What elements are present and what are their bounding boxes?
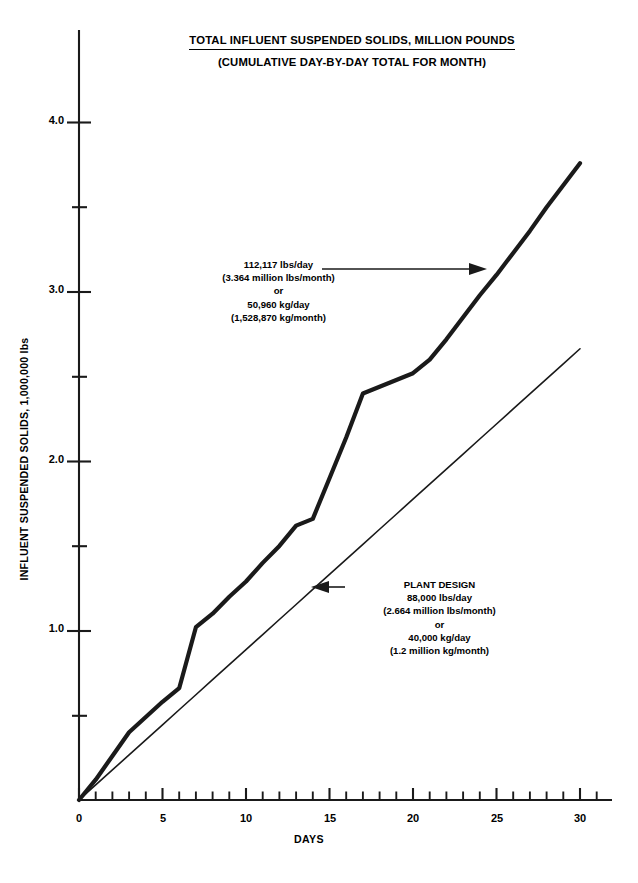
annotation-design-line2: 88,000 lbs/day xyxy=(352,591,527,604)
series-plant-design-line xyxy=(79,349,580,800)
chart-page: TOTAL INFLUENT SUSPENDED SOLIDS, MILLION… xyxy=(0,0,638,883)
chart-plot-area xyxy=(0,0,638,883)
annotation-actual-line4: 50,960 kg/day xyxy=(196,298,361,311)
x-axis-minor-ticks xyxy=(96,792,597,801)
annotation-plant-design: PLANT DESIGN 88,000 lbs/day (2.664 milli… xyxy=(352,578,527,657)
annotation-design-line6: (1.2 million kg/month) xyxy=(352,644,527,657)
annotation-design-line5: 40,000 kg/day xyxy=(352,631,527,644)
annotation-design-line1: PLANT DESIGN xyxy=(352,578,527,591)
annotation-design-line3: (2.664 million lbs/month) xyxy=(352,604,527,617)
annotation-actual-line1: 112,117 lbs/day xyxy=(196,258,361,271)
annotation-actual-line2: (3.364 million lbs/month) xyxy=(196,271,361,284)
annotation-actual-rate: 112,117 lbs/day (3.364 million lbs/month… xyxy=(196,258,361,324)
annotation-design-line4: or xyxy=(352,618,527,631)
x-axis-major-ticks xyxy=(79,788,580,800)
annotation-arrow-design xyxy=(311,581,345,593)
annotation-actual-line3: or xyxy=(196,284,361,297)
annotation-actual-line5: (1,528,870 kg/month) xyxy=(196,311,361,324)
